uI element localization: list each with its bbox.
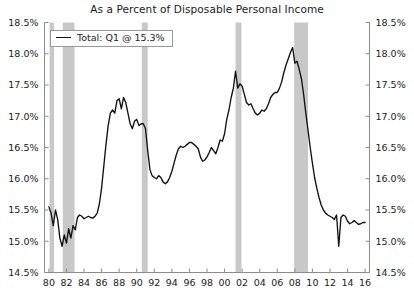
recession-band: [50, 23, 54, 273]
y-axis-left-ticks: 18.5%18.0%17.5%17.0%16.5%16.0%15.5%15.0%…: [8, 17, 48, 278]
y-tick-label-right: 15.0%: [376, 236, 406, 247]
y-tick-label-right: 17.5%: [376, 79, 406, 90]
x-tick-label: 80: [43, 277, 55, 288]
x-tick-label: 14: [341, 277, 353, 288]
y-tick-label-right: 15.5%: [376, 204, 406, 215]
x-tick-label: 84: [78, 277, 90, 288]
y-tick-label-right: 16.5%: [376, 142, 406, 153]
x-tick-label: 90: [131, 277, 143, 288]
x-tick-label: 94: [166, 277, 178, 288]
y-tick-label-right: 14.5%: [376, 267, 406, 278]
x-tick-label: 10: [306, 277, 318, 288]
y-tick-label-right: 18.5%: [376, 17, 406, 28]
x-tick-label: 06: [271, 277, 283, 288]
chart-legend: Total: Q1 @ 15.3%: [50, 30, 173, 47]
y-tick-label-right: 18.0%: [376, 48, 406, 59]
recession-band: [236, 23, 242, 273]
x-tick-label: 12: [324, 277, 336, 288]
recession-band: [294, 23, 308, 273]
y-axis-right-ticks: 18.5%18.0%17.5%17.0%16.5%16.0%15.5%15.0%…: [366, 17, 406, 278]
x-tick-label: 02: [236, 277, 248, 288]
data-series-total-line: [49, 48, 365, 247]
x-tick-label: 86: [96, 277, 108, 288]
x-tick-label: 96: [183, 277, 195, 288]
y-tick-label-left: 18.5%: [8, 17, 38, 28]
y-tick-label-left: 16.0%: [8, 173, 38, 184]
y-tick-label-left: 15.5%: [8, 204, 38, 215]
x-tick-label: 16: [359, 277, 371, 288]
legend-line-swatch: [56, 37, 71, 38]
y-tick-label-right: 17.0%: [376, 111, 406, 122]
chart-container: As a Percent of Disposable Personal Inco…: [0, 0, 414, 304]
y-tick-label-left: 15.0%: [8, 236, 38, 247]
y-tick-label-right: 16.0%: [376, 173, 406, 184]
y-tick-label-left: 16.5%: [8, 142, 38, 153]
y-tick-label-left: 14.5%: [8, 267, 38, 278]
x-axis-ticks: 80828486889092949698000204060810121416: [43, 269, 371, 288]
x-tick-label: 82: [60, 277, 72, 288]
x-tick-label: 04: [254, 277, 266, 288]
x-tick-label: 88: [113, 277, 125, 288]
x-tick-label: 98: [201, 277, 213, 288]
y-tick-label-left: 18.0%: [8, 48, 38, 59]
x-tick-label: 08: [289, 277, 301, 288]
y-tick-label-left: 17.0%: [8, 111, 38, 122]
x-tick-label: 00: [219, 277, 231, 288]
x-tick-label: 92: [148, 277, 160, 288]
y-tick-label-left: 17.5%: [8, 79, 38, 90]
legend-label-total: Total: Q1 @ 15.3%: [77, 33, 165, 43]
